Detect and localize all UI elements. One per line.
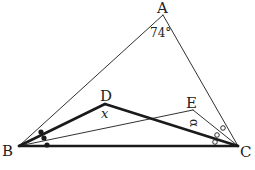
segment-bd [19, 104, 105, 146]
segments [19, 15, 238, 146]
angle-d-label: x [101, 106, 109, 121]
angle-c-mark-3 [213, 140, 218, 145]
point-label-d: D [100, 87, 112, 105]
point-label-e: E [186, 94, 197, 112]
angle-a-label: 74° [150, 26, 171, 40]
angle-e-label: α [187, 119, 201, 127]
segment-ec [193, 110, 238, 146]
angle-b-mark-2 [41, 135, 46, 140]
segment-ab [19, 15, 163, 146]
point-label-a: A [156, 0, 168, 17]
angle-c-mark-1 [221, 126, 226, 131]
angle-marks [38, 126, 225, 148]
point-label-b: B [2, 142, 13, 160]
angle-c-mark-2 [215, 133, 220, 138]
angle-b-mark-3 [44, 142, 49, 147]
geometry-diagram: A B C D E 74° x α [0, 0, 255, 170]
angle-b-mark-1 [38, 129, 43, 134]
point-label-c: C [240, 143, 251, 161]
